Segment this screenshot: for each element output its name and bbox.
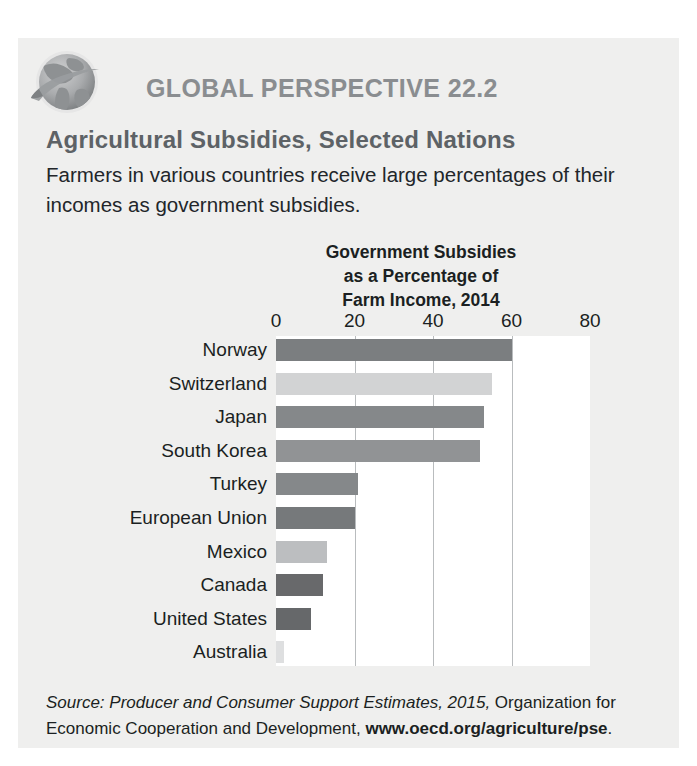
- card-lede-text: Farmers in various countries receive lar…: [46, 160, 656, 220]
- x-tick-label-80: 80: [579, 310, 600, 332]
- bar-united-states: [276, 608, 311, 630]
- bar-row: Australia: [276, 641, 590, 663]
- x-tick-label-0: 0: [271, 310, 282, 332]
- source-period: .: [608, 719, 613, 738]
- plot-area: NorwaySwitzerlandJapanSouth KoreaTurkeyE…: [276, 336, 590, 666]
- bar-chart: 020406080 NorwaySwitzerlandJapanSouth Ko…: [18, 310, 679, 670]
- source-url: www.oecd.org/agriculture/pse: [365, 719, 607, 738]
- bar-row: South Korea: [276, 440, 590, 462]
- bar-japan: [276, 406, 484, 428]
- globe-icon: [25, 44, 107, 126]
- x-tick-label-60: 60: [501, 310, 522, 332]
- bar-row: Mexico: [276, 541, 590, 563]
- bar-label-canada: Canada: [200, 574, 267, 596]
- global-perspective-card: GLOBAL PERSPECTIVE 22.2 Agricultural Sub…: [18, 38, 679, 748]
- bar-south-korea: [276, 440, 480, 462]
- bar-european-union: [276, 507, 355, 529]
- bar-norway: [276, 339, 512, 361]
- bar-row: Canada: [276, 574, 590, 596]
- bar-row: European Union: [276, 507, 590, 529]
- chart-title-line-1: Government Subsidies: [276, 240, 566, 264]
- bar-row: Turkey: [276, 473, 590, 495]
- bar-label-turkey: Turkey: [210, 473, 267, 495]
- bar-label-norway: Norway: [203, 339, 267, 361]
- card-kicker: GLOBAL PERSPECTIVE 22.2: [146, 74, 498, 103]
- source-citation-title: Source: Producer and Consumer Support Es…: [46, 693, 490, 712]
- source-note: Source: Producer and Consumer Support Es…: [46, 690, 660, 742]
- x-tick-label-40: 40: [422, 310, 443, 332]
- bar-label-switzerland: Switzerland: [169, 373, 267, 395]
- bar-switzerland: [276, 373, 492, 395]
- bar-row: Japan: [276, 406, 590, 428]
- bar-turkey: [276, 473, 358, 495]
- card-header: GLOBAL PERSPECTIVE 22.2: [18, 56, 679, 118]
- bar-australia: [276, 641, 284, 663]
- x-tick-label-20: 20: [344, 310, 365, 332]
- chart-title: Government Subsidies as a Percentage of …: [276, 240, 566, 312]
- card-subtitle: Agricultural Subsidies, Selected Nations: [46, 126, 515, 154]
- bar-label-australia: Australia: [193, 641, 267, 663]
- bar-label-european-union: European Union: [130, 507, 267, 529]
- bar-row: United States: [276, 608, 590, 630]
- bar-label-united-states: United States: [153, 608, 267, 630]
- bar-label-mexico: Mexico: [207, 541, 267, 563]
- bar-label-south-korea: South Korea: [161, 440, 267, 462]
- bar-label-japan: Japan: [215, 406, 267, 428]
- bar-mexico: [276, 541, 327, 563]
- bar-row: Switzerland: [276, 373, 590, 395]
- chart-title-line-2: as a Percentage of: [276, 264, 566, 288]
- bar-canada: [276, 574, 323, 596]
- bar-row: Norway: [276, 339, 590, 361]
- chart-title-line-3: Farm Income, 2014: [276, 288, 566, 312]
